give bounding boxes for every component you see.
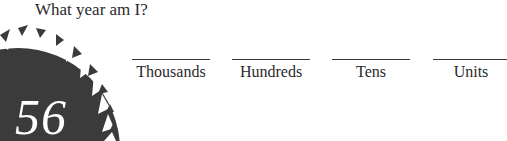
place-value-slots: Thousands Hundreds Tens Units bbox=[0, 0, 507, 141]
answer-line-thousands[interactable] bbox=[132, 59, 210, 60]
slot-tens[interactable]: Tens bbox=[332, 59, 410, 81]
slot-hundreds[interactable]: Hundreds bbox=[232, 59, 310, 81]
slot-label-thousands: Thousands bbox=[132, 63, 210, 81]
slot-thousands[interactable]: Thousands bbox=[132, 59, 210, 81]
slot-label-units: Units bbox=[433, 63, 507, 81]
answer-line-hundreds[interactable] bbox=[232, 59, 310, 60]
slot-units[interactable]: Units bbox=[433, 59, 507, 81]
answer-line-tens[interactable] bbox=[332, 59, 410, 60]
answer-line-units[interactable] bbox=[433, 59, 507, 60]
slot-label-tens: Tens bbox=[332, 63, 410, 81]
slot-label-hundreds: Hundreds bbox=[232, 63, 310, 81]
